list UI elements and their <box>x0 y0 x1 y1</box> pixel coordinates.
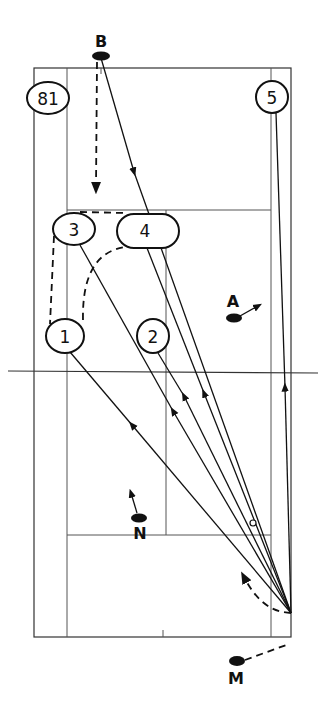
player-n-direction-arrow <box>131 493 137 513</box>
player-n: N <box>131 493 147 543</box>
position-4: 4 <box>117 214 179 248</box>
diagram-canvas: 81 5 3 4 1 2 <box>0 0 322 704</box>
player-a-marker <box>226 314 242 323</box>
position-5-label: 5 <box>267 88 278 108</box>
shot-m-to-1-tail <box>70 352 132 425</box>
player-b-label: B <box>95 32 107 51</box>
dashed-3-to-4 <box>80 212 126 213</box>
players: B A N M <box>92 32 258 688</box>
position-2-label: 2 <box>148 327 159 347</box>
shot-m-to-5-tail <box>276 113 285 387</box>
player-m-marker <box>229 656 245 666</box>
position-1: 1 <box>46 319 84 353</box>
player-b: B <box>92 32 110 61</box>
position-3: 3 <box>53 213 95 245</box>
position-81-label: 81 <box>37 89 59 109</box>
shot-trajectories <box>70 58 291 613</box>
m-to-hit-dashed <box>245 644 289 660</box>
player-a-direction-arrow <box>240 306 258 316</box>
shot-b-line-a <box>101 58 134 172</box>
player-m: M <box>228 656 245 688</box>
player-n-label: N <box>133 524 146 543</box>
position-5: 5 <box>256 81 288 113</box>
player-b-marker <box>92 52 110 61</box>
position-2: 2 <box>137 319 169 353</box>
position-4-label: 4 <box>140 221 151 241</box>
player-n-marker <box>131 514 147 523</box>
shot-m-to-5 <box>285 387 291 613</box>
shuttle-marker <box>250 520 256 526</box>
shot-m-to-3 <box>173 411 291 613</box>
badminton-tactics-diagram: 81 5 3 4 1 2 <box>0 0 322 704</box>
shot-m-to-4 <box>204 393 291 613</box>
court <box>8 68 318 637</box>
player-a: A <box>226 292 258 323</box>
player-m-label: M <box>228 669 244 688</box>
dashed-1-to-4-curve <box>83 247 126 320</box>
shot-m-to-2-tail <box>158 353 184 396</box>
positions: 81 5 3 4 1 2 <box>27 81 288 353</box>
position-81: 81 <box>27 82 69 114</box>
player-a-label: A <box>227 292 240 311</box>
position-3-label: 3 <box>69 220 80 240</box>
b-movement-dashed <box>96 62 97 188</box>
position-1-label: 1 <box>60 327 71 347</box>
dashed-3-to-1 <box>50 236 54 324</box>
